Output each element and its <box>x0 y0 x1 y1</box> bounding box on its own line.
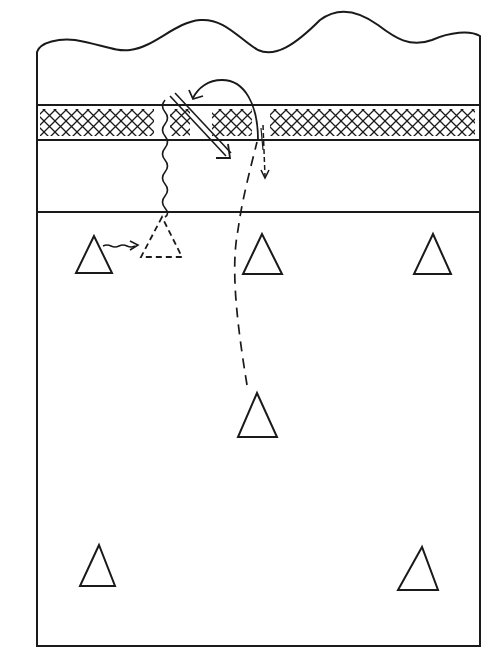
court-diagram <box>0 0 494 656</box>
court-diagram-canvas <box>0 0 494 656</box>
back-player-dashed-run <box>235 142 257 385</box>
player-right-back <box>398 547 438 590</box>
player-left-front <box>76 236 112 273</box>
player-right-front <box>414 234 451 274</box>
player-middle-back <box>238 393 277 437</box>
player-left-back <box>80 545 115 586</box>
shift-arrow <box>103 241 138 250</box>
player-left-front-moved <box>141 217 182 257</box>
tip-dashed-arrow <box>261 125 269 178</box>
court-outline <box>37 12 480 646</box>
player-middle-front <box>243 234 282 274</box>
blocker-wavy-path <box>163 100 168 217</box>
